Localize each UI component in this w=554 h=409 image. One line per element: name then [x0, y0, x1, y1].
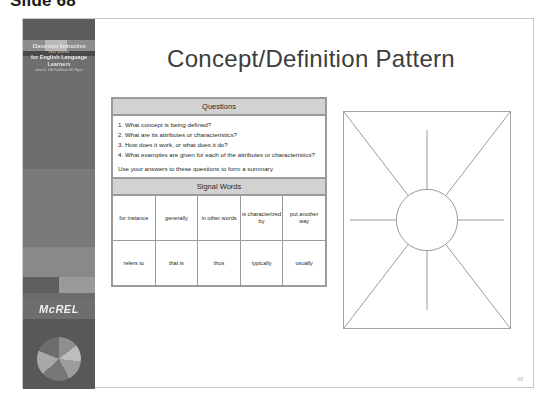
- signal-word-cell: refers to: [113, 241, 156, 286]
- sidebar-block-mid: [23, 169, 95, 247]
- signal-word-cell: generally: [155, 196, 198, 241]
- concept-definition-web-diagram: [343, 111, 511, 329]
- questions-body: 1. What concept is being defined? 2. Wha…: [112, 115, 326, 178]
- signal-word-cell: typically: [240, 241, 283, 286]
- book-cover-title: Classroom Instruction that Works for Eng…: [26, 44, 92, 72]
- concept-definition-organizer: Questions 1. What concept is being defin…: [111, 97, 327, 287]
- slide-sidebar: Classroom Instruction that Works for Eng…: [23, 19, 95, 387]
- question-item-1: 1. What concept is being defined?: [118, 120, 320, 130]
- signal-word-cell: for instance: [113, 196, 156, 241]
- sidebar-swatch-c: [23, 293, 95, 299]
- signal-word-cell: in other words: [198, 196, 241, 241]
- book-title-line-3: for English Language Learners: [26, 54, 92, 67]
- slide-content: Questions 1. What concept is being defin…: [111, 97, 515, 347]
- signal-words-header: Signal Words: [112, 178, 326, 195]
- pie-chart-icon: [37, 337, 81, 381]
- questions-list: 1. What concept is being defined? 2. Wha…: [118, 120, 320, 160]
- sidebar-band-top: [23, 19, 95, 40]
- signal-word-cell: is characterized by: [240, 196, 283, 241]
- signal-word-cell: usually: [283, 241, 326, 286]
- questions-header: Questions: [112, 98, 326, 115]
- table-row: refers to that is thus typically usually: [113, 241, 326, 286]
- page-number: 68: [517, 376, 523, 382]
- table-row: for instance generally in other words is…: [113, 196, 326, 241]
- signal-words-table: for instance generally in other words is…: [112, 195, 326, 286]
- signal-word-cell: thus: [198, 241, 241, 286]
- sidebar-block-mid-2: [23, 247, 95, 277]
- signal-word-cell: put another way: [283, 196, 326, 241]
- question-item-2: 2. What are its attributes or characteri…: [118, 130, 320, 140]
- question-item-4: 4. What examples are given for each of t…: [118, 150, 320, 160]
- page-caption: Slide 68: [10, 0, 76, 11]
- center-concept-circle: [396, 189, 457, 250]
- questions-summary-line: Use your answers to these questions to f…: [118, 164, 320, 173]
- sidebar-swatch-a: [23, 277, 59, 293]
- mcrel-logo: McREL: [23, 303, 95, 315]
- sidebar-swatch-b: [59, 277, 95, 293]
- book-title-authors: Jane D. Hill Kathleen M. Flynn: [26, 68, 92, 72]
- slide-title: Concept/Definition Pattern: [111, 45, 511, 73]
- signal-word-cell: that is: [155, 241, 198, 286]
- slide-canvas: Classroom Instruction that Works for Eng…: [22, 18, 534, 388]
- question-item-3: 3. How does it work, or what does it do?: [118, 140, 320, 150]
- web-diagram-svg: [344, 112, 510, 328]
